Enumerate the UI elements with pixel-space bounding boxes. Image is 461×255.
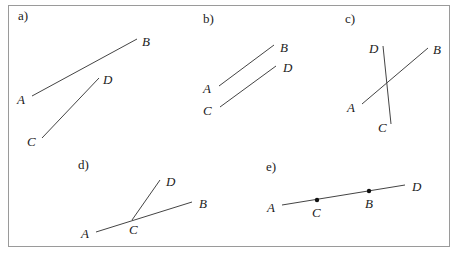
point-label-a: A bbox=[346, 100, 355, 115]
point-label-d: D bbox=[102, 72, 113, 87]
point-label-c: C bbox=[203, 103, 212, 118]
segments-diagram: a)ABCDb)ABCDc)ABCDd)ABCDe)ACBD bbox=[0, 0, 461, 255]
point-label-b: B bbox=[142, 34, 150, 49]
panel-a: a)ABCD bbox=[16, 8, 150, 149]
point-label-d: D bbox=[282, 60, 293, 75]
panel-d: d)ABCD bbox=[78, 157, 207, 241]
segment-ab bbox=[32, 39, 137, 96]
segment-ab bbox=[362, 48, 428, 104]
point-dot-c bbox=[315, 198, 319, 202]
point-label-a: A bbox=[202, 81, 211, 96]
point-label-d: D bbox=[165, 174, 176, 189]
panel-e: e)ACBD bbox=[266, 159, 422, 220]
point-label-d: D bbox=[411, 179, 422, 194]
point-label-c: C bbox=[312, 205, 321, 220]
segment-cd bbox=[132, 180, 160, 220]
point-label-b: B bbox=[365, 196, 373, 211]
point-label-b: B bbox=[199, 196, 207, 211]
point-label-c: C bbox=[27, 134, 36, 149]
segment-ad bbox=[282, 185, 405, 205]
point-label-c: C bbox=[129, 222, 138, 237]
panel-label: e) bbox=[266, 159, 276, 174]
segment-ab bbox=[219, 45, 274, 86]
panel-label: d) bbox=[78, 157, 89, 172]
segment-ab bbox=[96, 202, 192, 232]
point-dot-b bbox=[367, 189, 371, 193]
panel-label: c) bbox=[345, 11, 355, 26]
point-label-a: A bbox=[16, 92, 25, 107]
point-label-c: C bbox=[378, 120, 387, 135]
panel-c: c)ABCD bbox=[345, 11, 441, 135]
point-label-a: A bbox=[80, 226, 89, 241]
point-label-b: B bbox=[433, 42, 441, 57]
panel-label: b) bbox=[203, 11, 214, 26]
panel-label: a) bbox=[18, 8, 28, 23]
segment-cd bbox=[42, 78, 99, 138]
panel-b: b)ABCD bbox=[202, 11, 293, 118]
point-label-b: B bbox=[280, 40, 288, 55]
segment-cd bbox=[220, 66, 276, 107]
point-label-d: D bbox=[368, 41, 379, 56]
point-label-a: A bbox=[266, 200, 275, 215]
